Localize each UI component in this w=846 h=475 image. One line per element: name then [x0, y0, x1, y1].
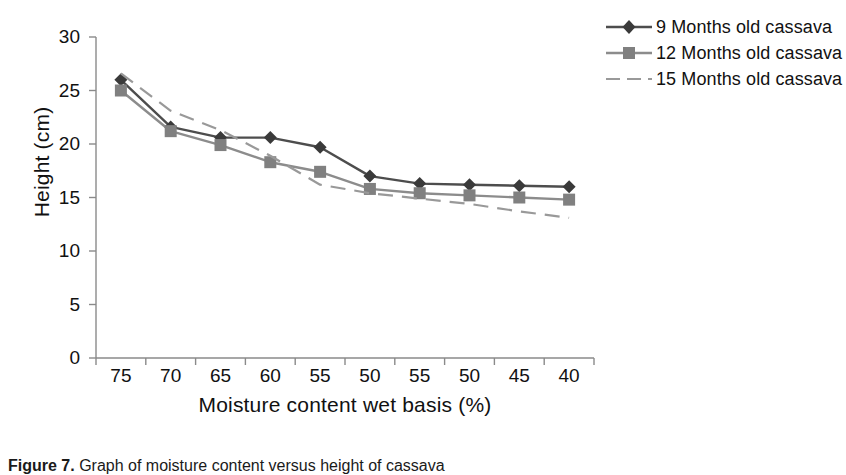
- series-1: [114, 73, 575, 193]
- data-point-marker: [563, 180, 576, 193]
- series-line: [121, 91, 569, 200]
- legend-item-9-months[interactable]: 9 Months old cassava: [606, 14, 844, 40]
- series-line: [121, 80, 569, 187]
- y-tick-label: 0: [34, 348, 80, 367]
- series-2: [115, 85, 575, 206]
- x-tick-label: 40: [539, 366, 599, 385]
- legend-label-12-months: 12 Months old cassava: [656, 43, 842, 64]
- legend-item-15-months[interactable]: 15 Months old cassava: [606, 66, 844, 92]
- data-point-marker: [215, 139, 227, 151]
- data-series-layer: [114, 73, 575, 218]
- data-point-marker: [513, 179, 526, 192]
- y-tick-marks: [89, 37, 96, 358]
- x-axis-title: Moisture content wet basis (%): [96, 393, 594, 417]
- figure-caption-text: Graph of moisture content versus height …: [75, 457, 445, 474]
- legend-key-diamond-icon: [606, 16, 652, 38]
- data-point-marker: [314, 141, 327, 154]
- legend-key-square-icon: [606, 42, 652, 64]
- legend-label-15-months: 15 Months old cassava: [656, 69, 842, 90]
- figure-caption-number: Figure 7.: [8, 457, 75, 474]
- data-point-marker: [363, 170, 376, 183]
- legend-label-9-months: 9 Months old cassava: [656, 17, 832, 38]
- data-point-marker: [264, 131, 277, 144]
- legend-key-dashed-line-icon: [606, 68, 652, 90]
- y-axis-title: Height (cm): [30, 42, 54, 282]
- y-tick-label: 5: [34, 295, 80, 314]
- chart-legend: 9 Months old cassava 12 Months old cassa…: [606, 14, 844, 92]
- data-point-marker: [563, 194, 575, 206]
- figure-caption: Figure 7. Graph of moisture content vers…: [8, 457, 708, 475]
- x-tick-marks: [96, 358, 594, 365]
- data-point-marker: [115, 85, 127, 97]
- data-point-marker: [463, 178, 476, 191]
- data-point-marker: [464, 189, 476, 201]
- data-point-marker: [314, 166, 326, 178]
- data-point-marker: [165, 125, 177, 137]
- legend-item-12-months[interactable]: 12 Months old cassava: [606, 40, 844, 66]
- data-point-marker: [513, 192, 525, 204]
